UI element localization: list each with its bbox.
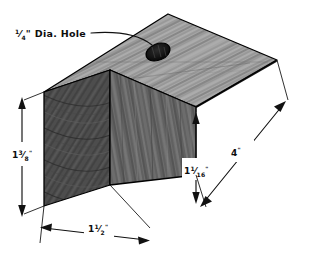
svg-text:11⁄16": 11⁄16" bbox=[184, 165, 209, 178]
drawing-canvas: 1⁄4" Dia. Hole 13⁄8" 11⁄2" 11⁄16" 4" bbox=[0, 0, 312, 257]
hole-label-suffix: " Dia. Hole bbox=[26, 28, 86, 39]
height-unit: " bbox=[29, 149, 32, 156]
isometric-block-drawing: 1⁄4" Dia. Hole 13⁄8" 11⁄2" 11⁄16" 4" bbox=[0, 0, 312, 257]
wood-block bbox=[30, 14, 277, 216]
hole-label: 1⁄4" Dia. Hole bbox=[15, 28, 86, 41]
width-unit: " bbox=[105, 223, 108, 230]
step-height-denominator: 16 bbox=[197, 171, 206, 178]
svg-text:1⁄4" Dia. Hole: 1⁄4" Dia. Hole bbox=[15, 28, 86, 41]
length-unit: " bbox=[237, 146, 240, 153]
step-height-unit: " bbox=[205, 165, 208, 172]
dimension-label-step-height: 11⁄16" bbox=[184, 165, 209, 178]
